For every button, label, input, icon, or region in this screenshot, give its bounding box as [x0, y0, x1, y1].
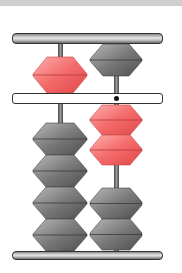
unit-marker-dot	[114, 96, 119, 101]
left-earth-bead-4[interactable]	[33, 219, 87, 251]
right-earth-bead-1[interactable]	[90, 105, 142, 135]
right-earth-bead-4[interactable]	[90, 219, 142, 250]
right-heaven-bead[interactable]	[90, 44, 142, 76]
right-earth-bead-2[interactable]	[90, 135, 142, 165]
left-earth-bead-1[interactable]	[33, 123, 87, 155]
top-border-strip	[0, 0, 182, 6]
reckoning-beam	[12, 93, 163, 104]
top-frame-bar	[12, 33, 163, 44]
right-earth-bead-3[interactable]	[90, 188, 142, 219]
bottom-frame-bar	[12, 251, 163, 260]
left-earth-bead-2[interactable]	[33, 155, 87, 187]
left-earth-bead-3[interactable]	[33, 187, 87, 219]
left-heaven-bead[interactable]	[33, 57, 87, 93]
